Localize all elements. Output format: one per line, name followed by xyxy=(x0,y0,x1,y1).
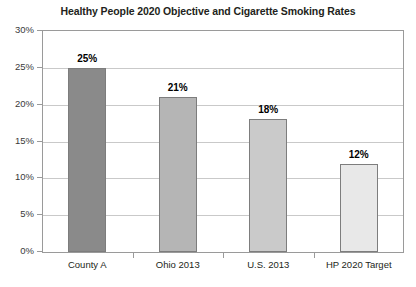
x-tick-mark xyxy=(133,253,134,258)
bar-1 xyxy=(68,68,106,252)
bar-chart: Healthy People 2020 Objective and Cigare… xyxy=(0,0,416,287)
bar-3 xyxy=(249,119,287,252)
bar-value-label: 18% xyxy=(238,104,298,115)
y-tick-label: 15% xyxy=(0,135,34,146)
x-category-label: HP 2020 Target xyxy=(309,259,409,270)
x-category-label: County A xyxy=(37,259,137,270)
bar-value-label: 21% xyxy=(148,82,208,93)
bar-value-label: 12% xyxy=(329,149,389,160)
bar-2 xyxy=(159,97,197,252)
y-tick-label: 0% xyxy=(0,245,34,256)
x-category-label: U.S. 2013 xyxy=(218,259,318,270)
y-tick-label: 5% xyxy=(0,208,34,219)
x-tick-mark xyxy=(223,253,224,258)
x-category-label: Ohio 2013 xyxy=(128,259,228,270)
y-tick-label: 20% xyxy=(0,98,34,109)
y-tick-label: 30% xyxy=(0,24,34,35)
bar-value-label: 25% xyxy=(57,53,117,64)
y-tick-label: 25% xyxy=(0,61,34,72)
x-tick-mark xyxy=(314,253,315,258)
chart-title: Healthy People 2020 Objective and Cigare… xyxy=(0,5,416,17)
bar-4 xyxy=(340,164,378,252)
y-tick-label: 10% xyxy=(0,171,34,182)
